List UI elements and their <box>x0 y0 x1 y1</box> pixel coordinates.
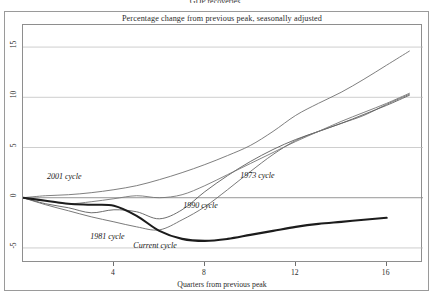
series-label-1981-cycle: 1981 cycle <box>90 232 124 241</box>
x-axis-label: Quarters from previous peak <box>22 280 422 289</box>
y-axis-tick-label: 15 <box>9 36 18 54</box>
x-axis-tick-label: 12 <box>284 268 306 277</box>
figure-container: GDP recoveries Percentage change from pr… <box>0 0 434 299</box>
series-label-current-cycle: Current cycle <box>133 241 176 250</box>
x-axis-tick-label: 8 <box>193 268 215 277</box>
series-label-1973-cycle: 1973 cycle <box>240 171 274 180</box>
x-axis-tick-label: 16 <box>375 268 397 277</box>
chart-subtitle: Percentage change from previous peak, se… <box>22 14 422 23</box>
y-axis-tick-label: 10 <box>9 86 18 104</box>
series-line <box>23 93 409 203</box>
plot-area <box>22 24 422 262</box>
x-axis-tick-mark <box>204 262 205 266</box>
y-axis-tick-label: 0 <box>9 186 18 204</box>
y-axis-tick-label: -5 <box>9 236 18 254</box>
series-label-1990-cycle: 1990 cycle <box>183 201 217 210</box>
series-label-2001-cycle: 2001 cycle <box>47 172 81 181</box>
cut-off-chart-title: GDP recoveries <box>120 0 310 3</box>
chart-svg <box>23 25 423 263</box>
x-axis-tick-label: 4 <box>102 268 124 277</box>
series-line <box>23 94 409 230</box>
x-axis-tick-mark <box>113 262 114 266</box>
x-axis-tick-mark <box>386 262 387 266</box>
x-axis-tick-mark <box>295 262 296 266</box>
y-axis-tick-label: 5 <box>9 136 18 154</box>
